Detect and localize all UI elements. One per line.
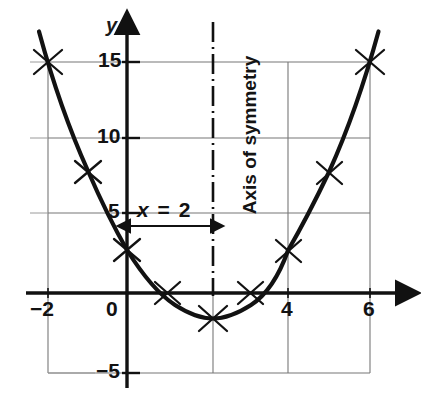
axis-of-symmetry-label: Axis of symmetry [239,35,261,235]
x-equals-2-value: 2 [179,198,191,221]
data-marker [317,162,342,184]
parabola-figure: 15 10 5 −5 −2 0 4 6 y Axis of symmetry x… [0,0,421,412]
x-tick-label-0: 0 [106,297,118,321]
data-marker [75,161,101,183]
plot-canvas [0,0,421,412]
x-tick-label-minus2: −2 [30,297,54,321]
data-markers [34,50,384,331]
y-tick-label-10: 10 [97,124,120,148]
grid-horizontal [48,62,370,373]
x-tick-label-6: 6 [363,297,375,321]
y-tick-label-5: 5 [108,199,120,223]
y-tick-label-15: 15 [98,48,121,72]
x-equals-2-variable: x [137,198,149,221]
y-tick-label-minus5: −5 [96,359,120,383]
x-equals-2-label: x = 2 [137,198,190,222]
grid-vertical [48,62,370,373]
y-axis-label: y [106,14,117,37]
x-equals-2-operator: = [158,198,170,221]
x-tick-label-4: 4 [281,297,293,321]
